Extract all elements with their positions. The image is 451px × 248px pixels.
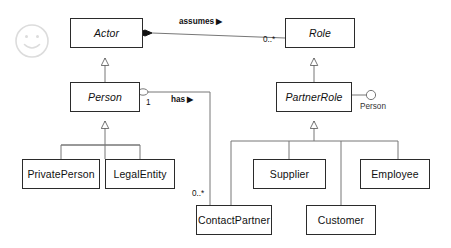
class-box-privateperson[interactable]: PrivatePerson [22,159,100,189]
class-box-role[interactable]: Role [285,18,355,48]
class-box-employee[interactable]: Employee [360,159,430,189]
multiplicity-person-end: 1 [146,99,151,107]
class-name-employee: Employee [371,169,419,180]
association-label-has: has ▶ [171,96,193,104]
class-name-customer: Customer [318,215,364,226]
uml-diagram-canvas: Actor Role Person PartnerRole PrivatePer… [0,0,451,248]
required-interface-label-person: Person [360,103,386,111]
association-label-assumes: assumes ▶ [179,18,222,26]
class-box-legalentity[interactable]: LegalEntity [105,159,175,189]
has-direction-arrow-icon: ▶ [187,96,193,104]
class-name-privateperson: PrivatePerson [27,169,94,180]
class-name-role: Role [309,28,331,39]
class-box-actor[interactable]: Actor [70,18,143,48]
class-box-supplier[interactable]: Supplier [253,159,326,189]
multiplicity-role-end: 0..* [263,36,275,44]
class-name-partnerrole: PartnerRole [285,92,342,103]
generalization-tree-person-subclasses [61,121,140,159]
association-label-has-text: has [171,95,185,104]
class-name-contactpartner: ContactPartner [198,215,270,226]
multiplicity-contactpartner-end: 0..* [192,190,204,198]
class-box-contactpartner[interactable]: ContactPartner [196,205,272,235]
association-label-assumes-text: assumes [179,17,214,26]
class-box-partnerrole[interactable]: PartnerRole [276,82,352,112]
class-name-person: Person [88,92,122,103]
assumes-direction-arrow-icon: ▶ [216,18,222,26]
class-name-supplier: Supplier [270,169,309,180]
required-interface-person-connector [352,90,376,99]
class-name-actor: Actor [94,28,119,39]
class-name-legalentity: LegalEntity [113,169,166,180]
smiley-face-watermark [13,22,51,60]
class-box-customer[interactable]: Customer [306,205,376,235]
class-box-person[interactable]: Person [70,82,140,112]
